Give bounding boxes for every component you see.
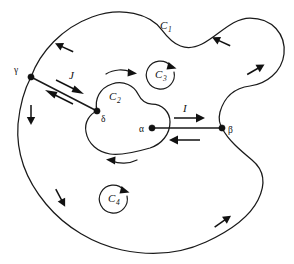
label-c4: C 4 — [108, 192, 120, 207]
label-c3: C 3 — [155, 68, 167, 83]
label-node-delta: δ — [101, 114, 106, 124]
node-dots — [28, 74, 225, 131]
direction-arrow-outer-bottom-right — [212, 212, 233, 230]
label-node-gamma: γ — [13, 65, 18, 75]
node-dot-delta[interactable] — [94, 108, 100, 114]
label-c4-subscript: 4 — [116, 198, 120, 207]
direction-arrow-outer-left — [27, 105, 35, 125]
label-c1: C 1 — [160, 19, 172, 34]
label-c1-letter: C — [160, 19, 168, 31]
c2-bottom-arrow — [106, 157, 137, 165]
node-dot-beta[interactable] — [219, 125, 225, 131]
cut-I-return-arrow — [169, 136, 200, 145]
label-c3-letter: C — [155, 68, 163, 80]
node-dot-alpha[interactable] — [149, 125, 155, 131]
label-c1-subscript: 1 — [168, 25, 172, 34]
figure-canvas: C 1 C 2 C 3 C 4 γ δ α β I J — [0, 0, 294, 264]
inner-hole-path — [86, 83, 170, 155]
region-diagram: C 1 C 2 C 3 C 4 γ δ α β I J — [0, 0, 294, 264]
cut-I-forward-arrow — [174, 114, 205, 123]
label-c2: C 2 — [109, 90, 121, 105]
direction-arrow-outer-top-left — [53, 40, 75, 56]
c2-top-arrow — [106, 69, 137, 77]
direction-arrow-outer-bottom-left — [52, 187, 69, 209]
label-c2-letter: C — [109, 90, 117, 102]
cut-segment-J — [31, 77, 97, 111]
direction-arrow-outer-right-upper — [245, 61, 267, 78]
inner-hole-curve-c2 — [86, 83, 170, 155]
label-node-alpha: α — [139, 124, 144, 134]
label-c3-subscript: 3 — [162, 74, 167, 83]
label-c2-subscript: 2 — [117, 96, 121, 105]
cut-J-line — [31, 77, 97, 111]
label-c4-letter: C — [108, 192, 116, 204]
outer-boundary-path — [18, 12, 284, 253]
outer-boundary-curve-c1 — [18, 12, 284, 253]
label-node-beta: β — [228, 125, 233, 135]
node-dot-gamma[interactable] — [28, 74, 34, 80]
label-cut-I: I — [182, 102, 188, 114]
label-cut-J: J — [69, 69, 75, 81]
